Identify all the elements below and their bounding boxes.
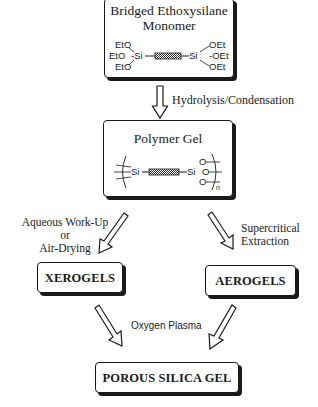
xerogels-title: XEROGELS [38, 271, 122, 286]
aqueous-label-line1: Aqueous Work-Up [10, 216, 120, 229]
aerogel-plasma-arrow [209, 305, 236, 349]
bridge-spacer-icon [149, 169, 179, 175]
porous-silica-gel-title: POROUS SILICA GEL [96, 371, 238, 386]
bridge-spacer-icon [155, 53, 181, 59]
xerogel-plasma-arrow [95, 305, 122, 346]
hydrolysis-label: Hydrolysis/Condensation [172, 94, 294, 107]
aqueous-label-line3: Air-Drying [10, 242, 120, 255]
aqueous-label: Aqueous Work-Up or Air-Drying [10, 216, 120, 255]
hydrolysis-arrow [153, 86, 168, 118]
supercritical-label: Supercritical Extraction [241, 222, 300, 248]
supercritical-arrow [208, 212, 233, 249]
xerogels-node: XEROGELS [37, 262, 123, 293]
aerogels-title: AEROGELS [206, 274, 295, 289]
oxygen-plasma-label: Oxygen Plasma [131, 319, 202, 332]
porous-silica-gel-node: POROUS SILICA GEL [95, 362, 239, 393]
supercritical-label-line1: Supercritical [241, 222, 300, 235]
polymer-gel-node: Polymer Gel Si Si O O O n [103, 120, 233, 197]
monomer-node: Bridged Ethoxysilane Monomer EtO EtO EtO… [104, 0, 234, 78]
aqueous-label-line2: or [10, 229, 120, 242]
polymer-bonds [104, 121, 234, 198]
aerogels-node: AEROGELS [205, 265, 296, 296]
monomer-bonds [105, 0, 235, 79]
supercritical-label-line2: Extraction [241, 235, 300, 248]
